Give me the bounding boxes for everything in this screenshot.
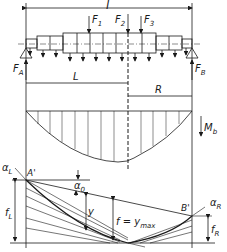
chord-AB (26, 180, 192, 216)
moment-curve (26, 111, 192, 162)
alphaR-label: αR (210, 198, 221, 211)
F1-label: F1 (92, 15, 102, 28)
span-label: l (106, 0, 109, 11)
moment-hatching (38, 111, 179, 161)
shaft (26, 33, 192, 53)
fL-label: fL (5, 208, 12, 221)
y-label: y (88, 207, 94, 217)
R-label: R (155, 85, 162, 95)
alphaL-label: αL (2, 163, 13, 176)
FA-label: FA (13, 64, 24, 77)
fR-label: fR (211, 225, 219, 238)
F3-label: F3 (144, 15, 154, 28)
F2-label: F2 (115, 15, 125, 28)
FB-label: FB (195, 64, 206, 77)
A-prime-label: A' (27, 169, 36, 178)
shaft-diagram (0, 0, 227, 252)
alpha0-label: α0 (74, 181, 85, 194)
L-label: L (73, 72, 79, 82)
Mb-label: Mb (204, 123, 217, 136)
fmax-label: f = ymax (116, 217, 155, 230)
B-prime-label: B' (181, 204, 190, 213)
